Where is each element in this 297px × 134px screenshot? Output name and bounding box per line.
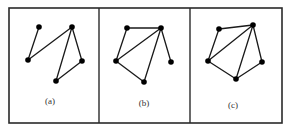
panel-label: (c): [228, 100, 238, 110]
graph-node: [69, 24, 75, 30]
graph-edge: [253, 25, 262, 62]
panel-label: (a): [45, 96, 55, 106]
graph-edge: [56, 27, 72, 81]
graph-edge: [28, 27, 72, 60]
graph-node: [158, 25, 164, 31]
graph-edge: [144, 28, 161, 82]
graph-edge: [116, 28, 161, 61]
graph-edge: [236, 25, 253, 79]
graph-edge: [72, 27, 82, 61]
graph-node: [113, 58, 119, 64]
panel-c: (c): [205, 22, 265, 110]
graph-edge: [161, 28, 171, 62]
graph-node: [168, 59, 174, 65]
graph-figure: (a)(b)(c): [0, 0, 297, 134]
graph-edge: [56, 61, 82, 81]
graph-node: [53, 78, 59, 84]
graph-node: [216, 26, 222, 32]
panel-label: (b): [139, 98, 150, 108]
graph-edge: [116, 61, 144, 82]
graph-node: [259, 59, 265, 65]
graph-node: [205, 58, 211, 64]
panel-a: (a): [25, 24, 85, 106]
graph-edge: [208, 61, 236, 79]
graph-node: [141, 79, 147, 85]
graph-node: [250, 22, 256, 28]
graph-edge: [116, 28, 127, 61]
panel-b: (b): [113, 25, 174, 108]
graph-node: [25, 57, 31, 63]
panels: (a)(b)(c): [25, 22, 265, 110]
graph-node: [233, 76, 239, 82]
graph-edge: [28, 27, 39, 60]
graph-node: [124, 25, 130, 31]
graph-node: [36, 24, 42, 30]
graph-node: [79, 58, 85, 64]
